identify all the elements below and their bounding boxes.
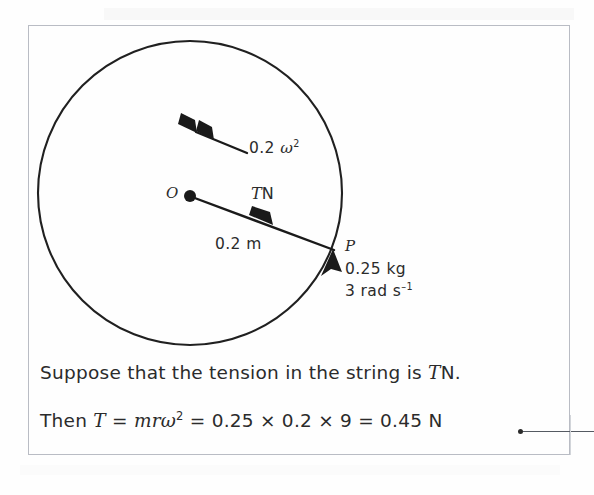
angular-speed-value: 3 rad s xyxy=(345,282,401,300)
acceleration-value: 0.2 xyxy=(249,139,280,157)
statement-line: Suppose that the tension in the string i… xyxy=(40,362,461,383)
acceleration-omega-exponent: 2 xyxy=(293,138,300,149)
angular-speed-exponent: –1 xyxy=(401,281,413,292)
statement-tension-symbol: T xyxy=(428,362,441,383)
statement-line-prefix: Suppose that the tension in the string i… xyxy=(40,362,428,383)
statement-line-suffix: N. xyxy=(441,362,461,383)
result-equals-one: = xyxy=(106,410,134,431)
callout-leader-line xyxy=(523,431,594,432)
scan-artifact-top xyxy=(104,8,574,20)
result-omega-exponent: 2 xyxy=(176,409,184,423)
result-line: Then T = mrω2 = 0.25 × 0.2 × 9 = 0.45 N xyxy=(40,410,443,431)
tension-label: TN xyxy=(251,186,274,203)
radius-label: 0.2 m xyxy=(215,236,262,252)
scan-artifact-bottom xyxy=(20,465,560,475)
result-mr-symbol: mr xyxy=(134,410,161,431)
tension-symbol: T xyxy=(251,184,262,203)
result-line-suffix: = 0.25 × 0.2 × 9 = 0.45 N xyxy=(184,410,443,431)
result-line-prefix: Then xyxy=(40,410,93,431)
tension-unit: N xyxy=(262,184,274,203)
worked-example-box xyxy=(28,25,570,455)
result-omega-symbol: ω xyxy=(161,410,176,431)
acceleration-omega-symbol: ω xyxy=(280,139,293,157)
callout-margin-tick xyxy=(570,415,571,455)
acceleration-label: 0.2 ω2 xyxy=(249,140,300,156)
centre-label-o: O xyxy=(166,186,178,202)
particle-mass-label: 0.25 kg xyxy=(345,261,406,277)
point-label-p: P xyxy=(345,239,355,255)
particle-angular-speed-label: 3 rad s–1 xyxy=(345,283,413,299)
result-tension-symbol: T xyxy=(93,410,106,431)
